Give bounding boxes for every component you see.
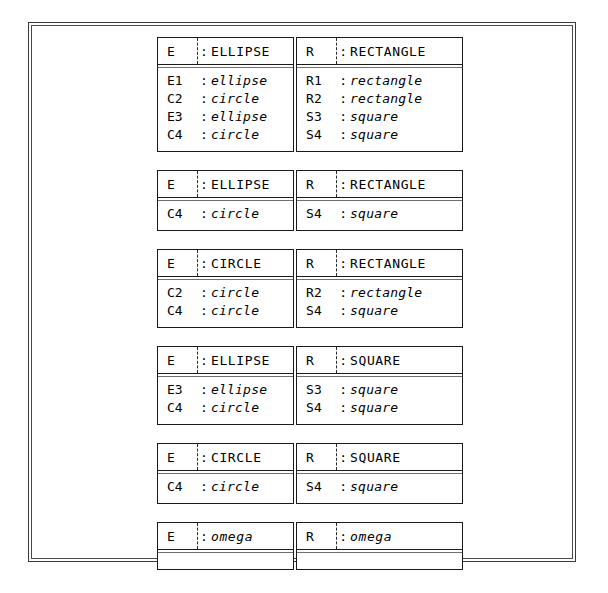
header-column-divider-dashed [197, 38, 198, 64]
row-colon-separator: : [336, 109, 350, 124]
row-key: S4 [306, 479, 336, 494]
relation-table-left-2: E:ELLIPSEC4:circle [157, 170, 294, 231]
table-body: R2:rectangleS4:square [297, 280, 462, 327]
row-colon-separator: : [336, 382, 350, 397]
table-row: R2:rectangle [306, 91, 462, 109]
header-relation-name: SQUARE [350, 450, 401, 465]
header-relation-name: ELLIPSE [211, 353, 270, 368]
row-colon-separator: : [197, 109, 211, 124]
row-key: S3 [306, 382, 336, 397]
row-key: R2 [306, 285, 336, 300]
header-column-divider-dashed [197, 444, 198, 470]
table-header: E:CIRCLE [158, 250, 293, 276]
row-key: S3 [306, 109, 336, 124]
row-colon-separator: : [336, 91, 350, 106]
header-variable-name: R [306, 177, 336, 192]
row-key: E3 [167, 109, 197, 124]
table-header: R:RECTANGLE [297, 38, 462, 64]
header-variable-name: E [167, 529, 197, 544]
row-key: E1 [167, 73, 197, 88]
row-colon-separator: : [197, 400, 211, 415]
header-relation-name: CIRCLE [211, 450, 262, 465]
relation-table-left-4: E:ELLIPSEE3:ellipseC4:circle [157, 346, 294, 425]
header-colon-separator: : [197, 353, 211, 368]
row-key: S4 [306, 206, 336, 221]
header-colon-separator: : [336, 177, 350, 192]
row-colon-separator: : [336, 73, 350, 88]
header-relation-name: omega [211, 529, 253, 544]
header-column-divider-dashed [197, 347, 198, 373]
header-colon-separator: : [197, 450, 211, 465]
relation-pair-1: E:ELLIPSEE1:ellipseC2:circleE3:ellipseC4… [157, 37, 463, 152]
header-column-divider-dashed [197, 523, 198, 549]
table-header: R:omega [297, 523, 462, 549]
header-colon-separator: : [197, 44, 211, 59]
row-value: ellipse [211, 109, 267, 124]
row-key: E3 [167, 382, 197, 397]
row-key: S4 [306, 303, 336, 318]
row-value: square [350, 109, 398, 124]
table-header: E:ELLIPSE [158, 171, 293, 197]
header-column-divider-dashed [336, 523, 337, 549]
header-colon-separator: : [336, 450, 350, 465]
row-value: square [350, 479, 398, 494]
row-key: C2 [167, 91, 197, 106]
table-row: S3:square [306, 382, 462, 400]
table-header: E:ELLIPSE [158, 347, 293, 373]
table-row: C4:circle [167, 303, 293, 321]
row-key: S4 [306, 127, 336, 142]
row-key: C4 [167, 127, 197, 142]
row-value: square [350, 382, 398, 397]
row-key: C4 [167, 206, 197, 221]
row-value: square [350, 303, 398, 318]
row-value: square [350, 206, 398, 221]
relation-pair-3: E:CIRCLEC2:circleC4:circleR:RECTANGLER2:… [157, 249, 463, 328]
row-value: circle [211, 400, 259, 415]
row-key: C4 [167, 303, 197, 318]
header-variable-name: E [167, 450, 197, 465]
relation-table-left-1: E:ELLIPSEE1:ellipseC2:circleE3:ellipseC4… [157, 37, 294, 152]
row-key: C4 [167, 479, 197, 494]
table-row: S4:square [306, 303, 462, 321]
table-body: C2:circleC4:circle [158, 280, 293, 327]
table-header: R:RECTANGLE [297, 171, 462, 197]
table-row: E3:ellipse [167, 382, 293, 400]
table-row: C4:circle [167, 479, 293, 497]
row-value: rectangle [350, 73, 422, 88]
row-value: square [350, 400, 398, 415]
table-row: C2:circle [167, 285, 293, 303]
row-key: R1 [306, 73, 336, 88]
row-colon-separator: : [197, 382, 211, 397]
relation-pair-2: E:ELLIPSEC4:circleR:RECTANGLES4:square [157, 170, 463, 231]
row-key: R2 [306, 91, 336, 106]
header-relation-name: SQUARE [350, 353, 401, 368]
header-colon-separator: : [336, 353, 350, 368]
table-row: S4:square [306, 400, 462, 418]
header-colon-separator: : [336, 529, 350, 544]
table-row: R2:rectangle [306, 285, 462, 303]
relation-pair-4: E:ELLIPSEE3:ellipseC4:circleR:SQUARES3:s… [157, 346, 463, 425]
relation-table-right-3: R:RECTANGLER2:rectangleS4:square [296, 249, 463, 328]
relation-table-left-5: E:CIRCLEC4:circle [157, 443, 294, 504]
header-column-divider-dashed [197, 250, 198, 276]
relation-table-right-5: R:SQUARES4:square [296, 443, 463, 504]
row-colon-separator: : [336, 303, 350, 318]
row-value: circle [211, 127, 259, 142]
table-header: R:RECTANGLE [297, 250, 462, 276]
table-row: E1:ellipse [167, 73, 293, 91]
relation-table-stack: E:ELLIPSEE1:ellipseC2:circleE3:ellipseC4… [157, 37, 463, 570]
row-colon-separator: : [197, 285, 211, 300]
table-header: E:ELLIPSE [158, 38, 293, 64]
row-colon-separator: : [197, 73, 211, 88]
row-colon-separator: : [197, 127, 211, 142]
table-body: S4:square [297, 201, 462, 230]
relation-table-left-6: E:omega [157, 522, 294, 570]
header-variable-name: R [306, 44, 336, 59]
table-header: E:CIRCLE [158, 444, 293, 470]
row-value: rectangle [350, 285, 422, 300]
relation-table-right-1: R:RECTANGLER1:rectangleR2:rectangleS3:sq… [296, 37, 463, 152]
row-value: ellipse [211, 382, 267, 397]
row-value: ellipse [211, 73, 267, 88]
header-variable-name: E [167, 44, 197, 59]
row-value: rectangle [350, 91, 422, 106]
